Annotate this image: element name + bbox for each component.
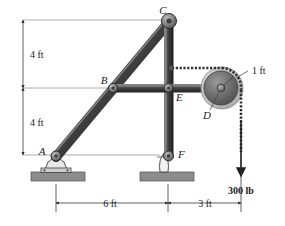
base-plate-a (31, 172, 85, 181)
dimension-label-3ft: 3 ft (198, 198, 212, 209)
pulley-icon (201, 67, 243, 110)
dimension-label-1ft: 1 ft (252, 65, 266, 76)
joint-label-e: E (175, 91, 183, 103)
joint-label-f: F (177, 148, 185, 160)
dimension-label-lower-4ft: 4 ft (30, 117, 44, 128)
joint-label-d: D (202, 109, 211, 121)
joint-label-c: C (159, 4, 167, 16)
joint-label-a: A (38, 145, 46, 157)
statics-frame-figure: C B E D A F 4 ft 4 ft 6 ft 3 ft 1 ft 300… (0, 0, 285, 226)
dimension-label-6ft: 6 ft (103, 198, 117, 209)
base-plate-f (140, 172, 194, 181)
dimension-label-upper-4ft: 4 ft (30, 49, 44, 60)
horizontal-dimension-rail (56, 160, 241, 212)
load-label-300lb: 300 lb (228, 185, 254, 196)
joint-label-b: B (101, 74, 108, 86)
figure-canvas: C B E D A F 4 ft 4 ft 6 ft 3 ft 1 ft 300… (0, 0, 285, 226)
